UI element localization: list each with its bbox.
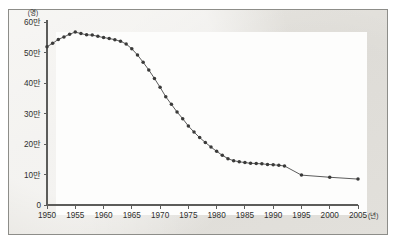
y-tick-label: 0 <box>36 201 41 210</box>
data-point <box>300 173 304 177</box>
y-tick-label: 40만 <box>24 79 41 88</box>
y-tick-label: 60만 <box>24 18 41 27</box>
data-point <box>136 53 140 57</box>
y-tick-label: 20만 <box>24 140 41 149</box>
data-point <box>175 110 179 114</box>
data-point <box>96 35 100 39</box>
y-tick-label: 30만 <box>24 110 41 119</box>
x-tick-label: 1950 <box>38 211 57 220</box>
x-tick-label: 1955 <box>66 211 85 220</box>
y-axis-unit-label: (명) <box>28 8 38 17</box>
data-point <box>232 159 236 163</box>
x-tick-labels: 1950195519601965197019751980198519901995… <box>38 211 368 220</box>
x-tick-label: 1980 <box>208 211 227 220</box>
data-point <box>204 141 208 145</box>
data-point <box>209 145 213 149</box>
data-point <box>249 161 253 165</box>
data-point <box>215 150 219 154</box>
data-point <box>260 162 264 166</box>
x-tick-label: 1965 <box>123 211 142 220</box>
data-point <box>198 136 202 140</box>
y-tick-label: 50만 <box>24 49 41 58</box>
data-point <box>356 177 360 181</box>
x-tick-label: 1975 <box>179 211 198 220</box>
data-point <box>181 117 185 121</box>
births-markers <box>45 30 360 181</box>
data-point <box>124 42 128 46</box>
data-point <box>187 124 191 128</box>
x-axis-unit-label: (년) <box>368 211 378 220</box>
data-point <box>141 61 145 64</box>
data-point <box>170 103 174 107</box>
data-point <box>153 77 157 81</box>
x-axis-group: 1950195519601965197019751980198519901995… <box>38 205 379 220</box>
data-point <box>277 164 281 168</box>
data-point <box>85 33 89 37</box>
data-point <box>243 161 247 165</box>
x-tick-label: 1985 <box>236 211 255 220</box>
data-point <box>266 163 270 167</box>
data-point <box>68 32 72 36</box>
data-point <box>57 38 61 42</box>
data-point <box>45 45 49 49</box>
y-tick-labels: 010만20만30만40만50만60만 <box>24 18 42 210</box>
data-point <box>226 157 230 161</box>
data-point <box>192 130 196 134</box>
x-tick-label: 2000 <box>321 211 340 220</box>
data-point <box>113 38 117 42</box>
data-point <box>164 95 168 99</box>
y-axis-group: 010만20만30만40만50만60만 (명) <box>24 8 47 210</box>
data-point <box>90 33 94 37</box>
x-tick-label: 1970 <box>151 211 170 220</box>
births-line <box>47 32 358 179</box>
data-point <box>283 164 287 168</box>
data-point <box>328 176 332 180</box>
data-point <box>271 163 275 167</box>
data-point <box>102 36 106 40</box>
data-point <box>238 160 242 164</box>
x-tick-label: 2005 <box>349 211 368 220</box>
data-point <box>119 39 123 43</box>
y-tick-label: 10만 <box>24 171 41 180</box>
x-tick-label: 1990 <box>264 211 283 220</box>
x-tick-label: 1960 <box>94 211 113 220</box>
data-point <box>158 86 162 90</box>
data-point <box>221 154 225 158</box>
data-point <box>79 32 83 36</box>
data-point <box>51 42 55 46</box>
data-point <box>107 37 111 41</box>
data-point <box>254 162 258 166</box>
data-point <box>62 35 66 39</box>
data-point <box>130 47 134 51</box>
chart-screenshot: 010만20만30만40만50만60만 (명) 1950195519601965… <box>0 0 396 243</box>
line-chart: 010만20만30만40만50만60만 (명) 1950195519601965… <box>0 0 396 243</box>
x-tick-label: 1995 <box>292 211 311 220</box>
series-group <box>45 30 360 181</box>
data-point <box>74 30 78 34</box>
data-point <box>147 68 151 72</box>
